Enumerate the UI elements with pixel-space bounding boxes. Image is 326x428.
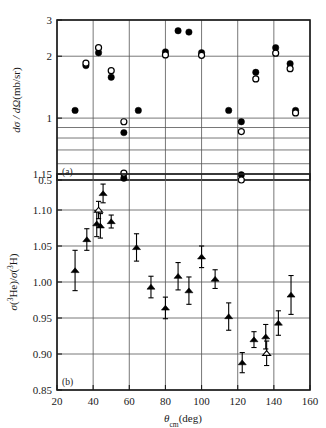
panel-a-label: (a) — [62, 167, 73, 178]
data-point-filled-triangle — [71, 268, 79, 273]
data-point-filled-triangle — [274, 320, 282, 325]
data-point-open-circle — [121, 119, 127, 125]
data-point-group — [211, 270, 219, 289]
panel-a-y-tick-label: 2 — [47, 50, 53, 62]
data-point-open-circle — [83, 60, 89, 66]
scientific-figure: 3210.5 (a) dσ / dΩ(mb/sr) 1.151.101.051.… — [0, 0, 326, 428]
panel-b-x-axis-label: θcm(deg) — [164, 412, 202, 428]
data-point-open-circle — [238, 177, 244, 183]
panel-b-y-tick-label: 1.00 — [33, 276, 53, 288]
data-point-filled-triangle — [107, 219, 115, 224]
panel-b-y-tick-label: 1.05 — [33, 240, 53, 252]
data-point-group — [198, 246, 206, 268]
panel-a-gridlines — [57, 20, 310, 180]
svg-text:σ(3He)/σ(3H): σ(3He)/σ(3H) — [6, 253, 21, 310]
panel-a-y-tick-labels: 3210.5 — [38, 14, 52, 186]
data-point-filled-triangle — [185, 288, 193, 293]
data-point-open-circle — [253, 76, 259, 82]
data-point-filled-circle — [108, 74, 114, 80]
data-point-group — [133, 234, 141, 261]
data-point-group — [225, 303, 233, 330]
panel-b-x-tick-labels: 20406080100120140160 — [52, 395, 319, 407]
panel-a-frame — [57, 20, 310, 180]
svg-text:dσ / dΩ(mb/sr): dσ / dΩ(mb/sr) — [10, 67, 23, 133]
data-point-filled-triangle — [174, 274, 182, 279]
data-point-group — [238, 353, 246, 373]
data-point-filled-circle — [238, 119, 244, 125]
panel-b: 1.151.101.051.000.950.900.85 20406080100… — [6, 168, 319, 428]
data-point-filled-circle — [186, 29, 192, 35]
data-point-group — [71, 250, 79, 290]
data-point-filled-circle — [225, 107, 231, 113]
data-point-group — [161, 297, 169, 319]
data-point-open-triangle — [263, 351, 271, 356]
data-point-group — [250, 332, 258, 348]
data-point-filled-triangle — [238, 360, 246, 365]
svg-text:θcm(deg): θcm(deg) — [164, 412, 202, 428]
data-point-group — [147, 276, 155, 298]
panel-b-x-tick-label: 20 — [52, 395, 64, 407]
data-point-filled-triangle — [99, 191, 107, 196]
data-point-group — [185, 277, 193, 304]
panel-b-y-tick-label: 1.15 — [33, 168, 53, 180]
data-point-open-circle — [121, 170, 127, 176]
data-point-filled-triangle — [83, 237, 91, 242]
data-point-open-circle — [273, 50, 279, 56]
data-point-open-circle — [162, 52, 168, 58]
panel-b-y-tick-label: 1.10 — [33, 204, 53, 216]
data-point-filled-triangle — [250, 337, 258, 342]
panel-b-y-axis-label: σ(3He)/σ(3H) — [6, 253, 21, 310]
data-point-group — [263, 341, 271, 365]
data-point-filled-triangle — [198, 254, 206, 259]
data-point-group — [107, 215, 115, 228]
panel-b-x-tick-label: 140 — [266, 395, 283, 407]
data-point-filled-triangle — [225, 314, 233, 319]
panel-a-data-points — [72, 28, 299, 183]
panel-b-y-tick-labels: 1.151.101.051.000.950.900.85 — [33, 168, 53, 396]
panel-b-label: (b) — [62, 377, 73, 388]
panel-b-x-tick-label: 120 — [229, 395, 246, 407]
panel-b-x-tick-label: 100 — [193, 395, 210, 407]
data-point-group — [262, 324, 270, 348]
data-point-filled-triangle — [161, 305, 169, 310]
panel-a-y-axis-label: dσ / dΩ(mb/sr) — [10, 67, 23, 133]
data-point-filled-triangle — [147, 284, 155, 289]
panel-b-data-points — [71, 184, 295, 373]
data-point-filled-triangle — [133, 245, 141, 250]
data-point-filled-circle — [175, 28, 181, 34]
panel-b-x-tick-label: 160 — [302, 395, 319, 407]
data-point-filled-circle — [253, 69, 259, 75]
panel-a: 3210.5 (a) dσ / dΩ(mb/sr) — [10, 14, 310, 186]
data-point-open-circle — [293, 110, 299, 116]
panel-a-y-tick-label: 3 — [47, 14, 53, 26]
data-point-group — [99, 184, 107, 203]
panel-b-x-tick-label: 40 — [88, 395, 100, 407]
data-point-group — [174, 263, 182, 290]
data-point-group — [95, 201, 103, 218]
panel-b-x-tick-label: 60 — [124, 395, 136, 407]
data-point-filled-circle — [72, 107, 78, 113]
data-point-open-circle — [287, 66, 293, 72]
figure-container: 3210.5 (a) dσ / dΩ(mb/sr) 1.151.101.051.… — [0, 0, 326, 428]
panel-b-y-tick-label: 0.85 — [33, 384, 53, 396]
data-point-filled-triangle — [262, 334, 270, 339]
data-point-open-circle — [108, 68, 114, 74]
data-point-group — [274, 311, 282, 335]
panel-b-gridlines — [57, 174, 310, 390]
panel-b-x-tick-label: 80 — [160, 395, 172, 407]
panel-b-y-tick-label: 0.95 — [33, 312, 53, 324]
data-point-filled-circle — [121, 129, 127, 135]
data-point-filled-circle — [135, 107, 141, 113]
data-point-group — [83, 229, 91, 251]
panel-b-y-tick-label: 0.90 — [33, 348, 53, 360]
data-point-group — [287, 276, 295, 315]
data-point-open-circle — [199, 52, 205, 58]
data-point-open-circle — [96, 45, 102, 51]
data-point-open-circle — [238, 129, 244, 135]
data-point-filled-triangle — [287, 292, 295, 297]
data-point-filled-triangle — [211, 276, 219, 281]
panel-a-y-tick-label: 1 — [47, 112, 53, 124]
